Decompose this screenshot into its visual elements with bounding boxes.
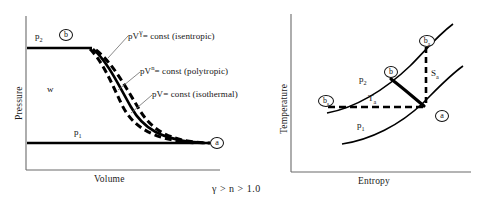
pv-label-p2: p2 <box>35 31 43 43</box>
temperature-entropy-diagram: ba b bs a p2 p1 Ta Sa Temperature Entrop… <box>245 0 491 206</box>
thermodynamic-process-figure: b a p2 p1 w Pressure Volume pVγ= const (… <box>0 0 491 206</box>
pv-annotation-isentropic-rest: = const (isentropic) <box>143 31 215 41</box>
pressure-volume-diagram: b a p2 p1 w Pressure Volume pVγ= const (… <box>0 0 246 206</box>
pv-annotation-polytropic-base: pV <box>140 66 151 76</box>
ts-point-b: b <box>384 66 398 78</box>
ts-point-b-text: b <box>389 67 393 76</box>
pv-label-p1: p1 <box>74 127 82 139</box>
ts-label-p1: p1 <box>357 120 365 132</box>
ts-label-ta: Ta <box>368 93 376 105</box>
pv-annotation-isothermal-rest: = const (isothermal) <box>163 89 238 99</box>
pv-label-p1-sub: 1 <box>79 132 82 139</box>
pv-y-axis-label: Pressure <box>14 86 24 120</box>
pv-point-a: a <box>210 137 224 149</box>
ts-point-bs-sub: s <box>327 101 329 107</box>
ts-point-a-text: a <box>440 111 444 120</box>
pv-leader-isentropic <box>108 36 128 58</box>
pv-annotation-isentropic-base: pV <box>128 31 139 41</box>
ts-y-axis-label: Temperature <box>279 84 289 134</box>
ts-label-sa-sub: a <box>436 73 439 80</box>
pv-annotation-isothermal-base: pV <box>152 89 163 99</box>
pv-leader-polytropic <box>118 72 140 90</box>
ts-curve-polytropic <box>391 79 424 106</box>
pv-leader-isothermal <box>131 95 152 113</box>
ts-label-p1-sub: 1 <box>362 125 365 132</box>
pv-annotation-polytropic: pVn= const (polytropic) <box>140 64 228 76</box>
ts-x-axis-label: Entropy <box>358 176 390 186</box>
pv-point-b-text: b <box>64 30 68 39</box>
ts-label-sa: Sa <box>431 68 439 80</box>
pv-annotation-isothermal: pV= const (isothermal) <box>152 87 238 99</box>
pv-label-p2-sub: 2 <box>40 36 43 43</box>
ts-label-p2: p2 <box>359 74 367 86</box>
pv-annotation-polytropic-rest: = const (polytropic) <box>155 66 229 76</box>
pv-annotation-isentropic: pVγ= const (isentropic) <box>128 28 215 41</box>
ts-point-ba: ba <box>419 35 435 47</box>
ts-label-ta-sub: a <box>374 98 377 105</box>
ts-label-p2-sub: 2 <box>364 79 367 86</box>
ts-point-a: a <box>435 110 449 122</box>
figure-caption: γ > n > 1.0 <box>212 183 261 194</box>
pv-x-axis-label: Volume <box>94 174 125 184</box>
pv-point-b: b <box>59 29 73 41</box>
pv-label-work: w <box>47 84 54 94</box>
ts-point-ba-sub: a <box>428 41 430 47</box>
ts-point-bs: bs <box>318 95 334 107</box>
pv-point-a-text: a <box>215 138 219 147</box>
